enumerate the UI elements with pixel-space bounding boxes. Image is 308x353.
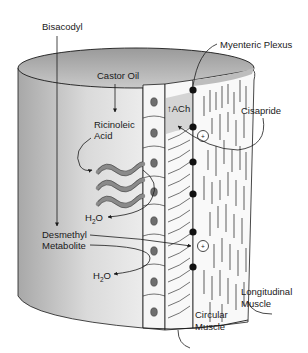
stimulation-site-lower: +	[198, 241, 209, 252]
plus-sign: +	[201, 243, 205, 250]
ganglion-icon	[189, 263, 196, 270]
label-ricinoleic-acid-line1: Ricinoleic	[94, 119, 135, 130]
ganglion-icon	[189, 86, 196, 93]
label-ricinoleic-acid-line2: Acid	[94, 130, 112, 141]
nucleus-icon	[151, 308, 158, 316]
nucleus-icon	[151, 129, 158, 137]
circular-muscle-leader	[178, 330, 190, 348]
label-longitudinal-line2: Muscle	[241, 298, 271, 309]
label-desmethyl-line1: Desmethyl	[42, 229, 87, 240]
cylinder-lumen	[18, 68, 143, 328]
diagram-canvas: + +	[0, 0, 308, 353]
label-cisapride: Cisapride	[241, 105, 281, 116]
nucleus-icon	[151, 98, 158, 106]
label-circular-line2: Muscle	[195, 321, 225, 332]
label-myenteric-plexus: Myenteric Plexus	[220, 39, 293, 50]
ganglion-icon	[189, 228, 196, 235]
ganglion-icon	[189, 123, 196, 130]
ganglion-icon	[189, 190, 196, 197]
label-longitudinal-line1: Longitudinal	[241, 286, 292, 297]
nucleus-icon	[151, 217, 158, 225]
intestinal-wall	[143, 68, 255, 330]
label-ach: ↑ACh	[167, 103, 190, 114]
label-circular-line1: Circular	[195, 309, 228, 320]
nucleus-icon	[151, 278, 158, 286]
nucleus-icon	[151, 159, 158, 167]
nucleus-icon	[151, 247, 158, 255]
ganglion-icon	[189, 158, 196, 165]
label-desmethyl-line2: Metabolite	[42, 240, 86, 251]
label-bisacodyl: Bisacodyl	[42, 21, 83, 32]
plus-sign: +	[201, 133, 205, 140]
label-castor-oil: Castor Oil	[97, 70, 139, 81]
